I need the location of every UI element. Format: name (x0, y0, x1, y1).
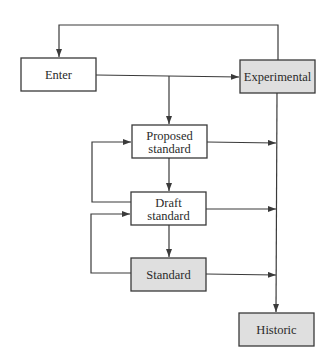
node-proposed-label-line2: standard (148, 142, 191, 156)
node-enter: Enter (21, 58, 96, 91)
node-experimental-label: Experimental (244, 70, 312, 84)
edge-enter-to-experimental (96, 75, 239, 77)
node-draft-label-line2: standard (147, 209, 190, 223)
node-historic: Historic (239, 313, 314, 346)
node-enter-label: Enter (45, 68, 73, 82)
edge-experimental-to-historic (276, 93, 277, 312)
node-standard-label: Standard (146, 268, 191, 282)
flowchart-canvas: Enter Experimental Proposed standard Dra… (0, 0, 330, 360)
node-draft-standard: Draft standard (131, 192, 206, 225)
edge-standard-to-draft (91, 214, 131, 273)
node-proposed-standard: Proposed standard (132, 125, 207, 158)
node-draft-label-line1: Draft (155, 196, 182, 210)
node-experimental: Experimental (240, 60, 315, 93)
edge-draft-to-proposed (92, 142, 131, 202)
node-historic-label: Historic (256, 323, 297, 337)
node-standard: Standard (131, 258, 206, 291)
node-proposed-label-line1: Proposed (146, 129, 193, 143)
edge-standard-to-historic (206, 274, 276, 275)
edge-experimental-to-enter (59, 25, 278, 60)
edge-proposed-to-historic (207, 142, 276, 143)
